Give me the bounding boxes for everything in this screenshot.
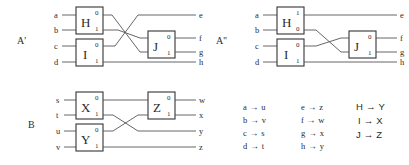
gate-x-sub: 1 — [95, 110, 99, 118]
map-to: X — [376, 115, 383, 126]
gate-h-sup-2: 1 — [296, 9, 300, 17]
map-row: g→x — [301, 128, 325, 138]
map-arrow-icon: → — [250, 128, 259, 138]
map-arrow-icon: → — [250, 141, 259, 151]
map-row: h→y — [301, 141, 325, 151]
map-to: Z — [376, 129, 382, 140]
map-to: x — [320, 128, 325, 138]
gate-j-sub-2: 1 — [368, 49, 372, 57]
gate-i-sup-2: 0 — [296, 41, 300, 49]
output-label-f-2: f — [400, 33, 403, 43]
gate-i-sub-2: 1 — [296, 57, 300, 65]
gate-i-sup: 0 — [95, 41, 99, 49]
gate-h-sub-2: 0 — [296, 25, 300, 33]
output-label-e: e — [199, 10, 203, 20]
map-arrow-icon: → — [307, 115, 316, 125]
map-from: I — [358, 115, 361, 126]
map-arrow-icon: → — [366, 101, 376, 112]
map-row: d→t — [243, 141, 265, 151]
map-arrow-icon: → — [364, 129, 374, 140]
circuit-a-prime-label: A' — [17, 35, 26, 46]
circuit-diagram-svg: A' a b c d H 0 1 I 0 1 J 0 1 — [0, 0, 409, 165]
map-to: v — [262, 115, 267, 125]
gate-j-letter-2: J — [354, 39, 359, 54]
input-label-u: u — [56, 126, 61, 136]
map-row: H→Y — [356, 101, 385, 112]
gate-h-sub: 1 — [95, 25, 99, 33]
map-arrow-icon: → — [250, 102, 259, 112]
circuit-b: B s t u v X 0 1 Y 0 1 Z 0 1 — [28, 92, 206, 152]
map-arrow-icon: → — [308, 141, 317, 151]
map-from: d — [243, 141, 248, 151]
map-arrow-icon: → — [308, 102, 317, 112]
map-to: w — [318, 115, 325, 125]
gate-y-letter: Y — [81, 132, 91, 147]
map-to: y — [320, 141, 325, 151]
map-row: e→z — [301, 102, 323, 112]
map-from: a — [243, 102, 247, 112]
map-from: h — [301, 141, 306, 151]
map-row: J→Z — [356, 129, 382, 140]
output-label-h-2: h — [400, 57, 405, 67]
circuit-a-double-prime-label: A'' — [216, 35, 227, 46]
circuit-a-double-prime: A'' a b c d H 1 0 I 0 1 J 0 1 — [216, 7, 405, 67]
input-label-d: d — [54, 57, 59, 67]
output-label-z: z — [199, 142, 203, 152]
gate-i-letter-2: I — [284, 47, 288, 62]
map-to: t — [262, 141, 265, 151]
gate-i-letter: I — [83, 47, 87, 62]
map-from: b — [243, 115, 247, 125]
gate-map: H→Y I→X J→Z — [356, 101, 385, 140]
wire-map-left: a→u b→v c→s d→t — [243, 102, 267, 151]
wire-map-right: e→z f→w g→x h→y — [301, 102, 325, 151]
map-to: s — [261, 128, 264, 138]
output-label-x: x — [199, 110, 204, 120]
map-to: Y — [378, 101, 385, 112]
output-label-w: w — [199, 95, 206, 105]
output-label-h: h — [199, 57, 204, 67]
gate-z-letter: Z — [153, 100, 161, 115]
figure-canvas: A' a b c d H 0 1 I 0 1 J 0 1 — [0, 0, 409, 165]
gate-h-letter-2: H — [282, 15, 291, 30]
input-label-v: v — [56, 142, 61, 152]
output-label-e-2: e — [400, 10, 404, 20]
output-label-f: f — [199, 33, 202, 43]
gate-z-sub: 1 — [167, 110, 171, 118]
gate-y-sub: 1 — [95, 142, 99, 150]
map-from: f — [301, 115, 304, 125]
map-to: z — [319, 102, 323, 112]
gate-h-sup: 0 — [95, 9, 99, 17]
map-arrow-icon: → — [308, 128, 317, 138]
map-arrow-icon: → — [250, 115, 259, 125]
input-label-c-2: c — [255, 41, 259, 51]
output-label-g: g — [199, 47, 204, 57]
gate-i-box-2 — [277, 39, 304, 66]
map-from: J — [356, 129, 361, 140]
map-from: g — [301, 128, 306, 138]
gate-i-box — [76, 39, 103, 66]
gate-j-sub: 1 — [167, 49, 171, 57]
wire-h0-to-j1-2 — [304, 30, 349, 52]
map-row: c→s — [243, 128, 265, 138]
map-row: a→u — [243, 102, 266, 112]
input-label-c: c — [54, 41, 58, 51]
map-to: u — [261, 102, 266, 112]
gate-y-sup: 0 — [95, 126, 99, 134]
map-row: f→w — [301, 115, 325, 125]
input-label-a-2: a — [255, 10, 259, 20]
input-label-d-2: d — [255, 57, 260, 67]
output-label-y: y — [199, 126, 204, 136]
gate-j-sup-2: 0 — [368, 33, 372, 41]
map-from: c — [243, 128, 247, 138]
mapping-table: a→u b→v c→s d→t e→z f→w — [243, 101, 385, 151]
circuit-a-prime: A' a b c d H 0 1 I 0 1 J 0 1 — [17, 7, 204, 67]
map-row: I→X — [358, 115, 383, 126]
gate-h-letter: H — [81, 15, 90, 30]
map-arrow-icon: → — [364, 115, 374, 126]
map-from: e — [301, 102, 305, 112]
wire-y0-to-z1 — [103, 115, 148, 131]
gate-j-letter: J — [153, 39, 158, 54]
map-from: H — [356, 101, 363, 112]
gate-i-sub: 1 — [95, 57, 99, 65]
gate-j-sup: 0 — [167, 33, 171, 41]
